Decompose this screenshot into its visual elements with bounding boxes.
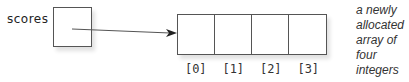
array-block [177, 14, 327, 55]
annotation-note: a newly allocated array of four integers [356, 3, 408, 78]
array-cell-3 [289, 15, 326, 54]
index-label-3: [3] [290, 62, 328, 76]
array-cell-1 [215, 15, 252, 54]
index-label-2: [2] [252, 62, 290, 76]
array-cell-0 [178, 15, 215, 54]
array-cell-2 [252, 15, 289, 54]
index-label-1: [1] [215, 62, 253, 76]
index-label-0: [0] [177, 62, 215, 76]
array-index-labels: [0] [1] [2] [3] [177, 62, 327, 76]
